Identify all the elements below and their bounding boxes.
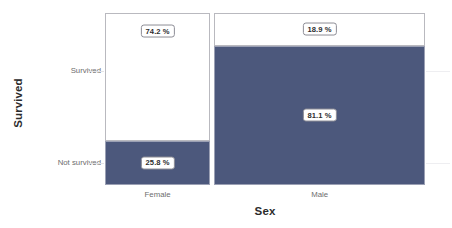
- x-tick-label-female: Female: [105, 190, 210, 199]
- mosaic-column-male[interactable]: 18.9 % 81.1 %: [214, 13, 425, 185]
- mosaic-column-female[interactable]: 74.2 % 25.8 %: [105, 13, 210, 185]
- x-tick-label-male: Male: [214, 190, 425, 199]
- value-label-male-survived: 18.9 %: [302, 23, 336, 36]
- y-tick-mark-not-survived: [88, 163, 104, 164]
- x-axis-title: Sex: [105, 205, 425, 217]
- mosaic-chart: Survived Survived Not survived 74.2 % 25…: [0, 0, 452, 228]
- y-tick-extension-survived: [426, 71, 450, 72]
- value-label-male-not-survived: 81.1 %: [302, 109, 336, 122]
- value-label-female-not-survived: 25.8 %: [140, 156, 174, 169]
- value-label-female-survived: 74.2 %: [140, 25, 174, 38]
- y-tick-mark-survived: [88, 71, 104, 72]
- y-tick-extension-not-survived: [426, 163, 450, 164]
